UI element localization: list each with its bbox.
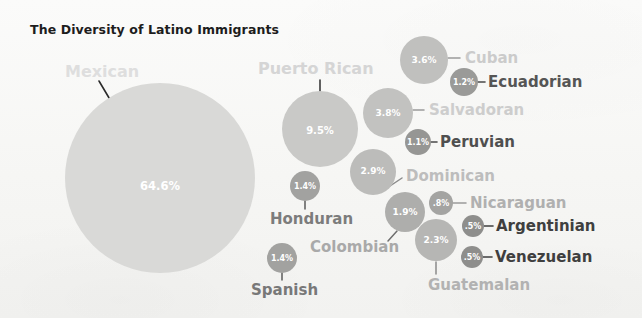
bubble-value-label: 2.3% <box>424 235 449 245</box>
bubble-value-label: .8% <box>433 199 450 208</box>
bubble-value-label: 3.6% <box>412 55 437 65</box>
category-label-dominican: Dominican <box>406 167 495 185</box>
category-label-argentinian: Argentinian <box>496 217 596 235</box>
bubble-value-label: 1.1% <box>407 138 429 147</box>
bubble-value-label: 2.9% <box>361 166 386 176</box>
category-label-nicaraguan: Nicaraguan <box>470 194 566 212</box>
category-label-cuban: Cuban <box>465 49 518 67</box>
bubble-chart-canvas: 64.6%9.5%3.8%3.6%2.9%2.3%1.9%1.4%1.4%1.2… <box>0 0 642 318</box>
bubble-value-label: 64.6% <box>140 179 180 193</box>
category-label-venezuelan: Venezuelan <box>495 248 592 266</box>
category-label-puerto-rican: Puerto Rican <box>258 59 374 78</box>
bubble-value-label: 3.8% <box>376 108 401 118</box>
category-label-colombian: Colombian <box>310 238 399 256</box>
category-label-guatemalan: Guatemalan <box>428 276 530 294</box>
bubble-value-label: 1.4% <box>294 182 316 191</box>
bubble-chart: The Diversity of Latino Immigrants 64.6%… <box>0 0 642 318</box>
bubble-value-label: 1.2% <box>453 78 475 87</box>
bubble-value-label: .5% <box>465 222 482 231</box>
category-label-honduran: Honduran <box>270 210 353 228</box>
category-label-salvadoran: Salvadoran <box>429 101 524 119</box>
category-label-spanish: Spanish <box>251 281 318 299</box>
bubble-value-label: 1.9% <box>393 207 418 217</box>
bubble-value-label: .5% <box>464 253 481 262</box>
bubble-value-label: 9.5% <box>306 125 334 136</box>
category-label-peruvian: Peruvian <box>440 133 515 151</box>
category-label-mexican: Mexican <box>65 62 139 81</box>
bubble-mexican[interactable] <box>65 83 255 273</box>
category-label-ecuadorian: Ecuadorian <box>488 73 582 91</box>
bubble-value-label: 1.4% <box>271 254 293 263</box>
